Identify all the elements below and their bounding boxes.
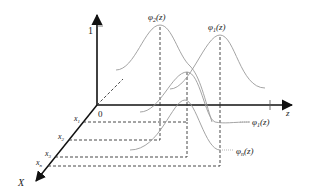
x-tick-xn: xn bbox=[35, 158, 43, 168]
origin-label: 0 bbox=[98, 109, 103, 119]
curve-label-phi2: φ2(z) bbox=[148, 12, 165, 23]
curve-label-phi1-front: φ1(z) bbox=[252, 117, 269, 128]
z-axis-label: z bbox=[285, 108, 290, 118]
membership-curves bbox=[116, 25, 265, 150]
projection-lines bbox=[48, 25, 220, 166]
back-diagonal bbox=[97, 79, 123, 105]
x-tick-x2: x2 bbox=[57, 132, 65, 142]
curve-label-phi1-back: φ1(z) bbox=[208, 22, 225, 33]
x-tick-x3: x3 bbox=[44, 149, 52, 159]
curve-label-phin: φn(z) bbox=[236, 146, 253, 157]
vertical-tick-label: 1 bbox=[88, 25, 93, 36]
x-tick-x1: x1 bbox=[73, 114, 80, 124]
membership-diagram: 1 z X 0 φ2(z) φ1(z) φ1(z) φn(z) bbox=[0, 0, 312, 194]
x-axis bbox=[36, 105, 97, 181]
x-axis-label: X bbox=[17, 177, 25, 188]
